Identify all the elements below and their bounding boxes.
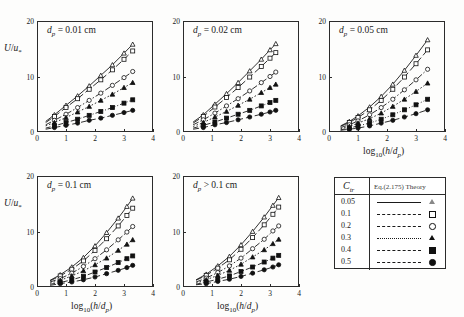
panel-dp-gt-0-1-marker-0.2 (239, 256, 243, 260)
panel-dp-gt-0-1-marker-0.2 (262, 237, 266, 241)
panel-dp-gt-0-1-marker-0.3 (250, 255, 255, 259)
legend-marker-0.1 (429, 211, 436, 218)
legend-header-ctr: Ctr (343, 180, 354, 194)
panel-dp-gt-0-1-marker-0.1 (262, 223, 266, 227)
panel-dp-gt-0-1-marker-0.1 (216, 266, 220, 270)
panel-dp-gt-0-1-marker-0.2 (251, 247, 255, 251)
legend-value-0.4: 0.4 (341, 245, 351, 254)
panel-dp-gt-0-1-marker-0.1 (271, 212, 275, 216)
panel-dp-gt-0-1-curves (0, 0, 464, 317)
panel-dp-gt-0-1-marker-0.1 (251, 236, 255, 240)
panel-dp-gt-0-1-marker-0.1 (239, 247, 243, 251)
legend-linestyle-0.05 (377, 202, 421, 203)
panel-dp-gt-0-1-marker-0.4 (277, 253, 281, 257)
legend-divider (369, 178, 370, 270)
legend-marker-0.2 (429, 223, 436, 230)
panel-dp-gt-0-1-marker-0.5 (277, 263, 281, 267)
legend-linestyle-0.2 (377, 226, 421, 227)
panel-dp-gt-0-1-marker-0.4 (251, 265, 255, 269)
legend-value-0.3: 0.3 (341, 233, 351, 242)
legend-value-0.5: 0.5 (341, 257, 351, 266)
panel-dp-gt-0-1: dp > 0.1 cmlog10(h/dp)0102001234 (0, 0, 464, 317)
panel-dp-gt-0-1-marker-0.5 (216, 279, 220, 283)
figure-multi-panel-plot: dp = 0.01 cmU/u*0102001234dp = 0.02 cm01… (0, 0, 464, 317)
panel-dp-gt-0-1-marker-0.3 (239, 262, 244, 266)
panel-dp-gt-0-1-marker-0.2 (277, 224, 281, 228)
panel-dp-gt-0-1-marker-0.3 (262, 248, 267, 252)
legend-linestyle-0.3 (377, 238, 421, 239)
legend-marker-0.05 (429, 199, 435, 204)
legend-linestyle-0.4 (377, 250, 421, 251)
panel-dp-gt-0-1-marker-0.4 (271, 256, 275, 260)
panel-dp-gt-0-1-marker-0.5 (271, 265, 275, 269)
legend-table: CtrEq.(2.175) Theory0.050.10.20.30.40.5 (334, 177, 446, 269)
panel-dp-gt-0-1-marker-0.2 (271, 229, 275, 233)
legend-marker-0.3 (429, 235, 435, 240)
panel-dp-gt-0-1-marker-0.4 (262, 260, 266, 264)
legend-value-0.05: 0.05 (341, 197, 355, 206)
panel-dp-gt-0-1-marker-0.5 (251, 271, 255, 275)
panel-dp-gt-0-1-marker-0.4 (239, 269, 243, 273)
legend-value-0.1: 0.1 (341, 209, 351, 218)
panel-dp-gt-0-1-marker-0.1 (227, 258, 231, 262)
legend-marker-0.5 (429, 259, 436, 266)
panel-dp-gt-0-1-marker-0.5 (239, 274, 243, 278)
panel-dp-gt-0-1-marker-0.3 (276, 237, 281, 241)
panel-dp-gt-0-1-marker-0.05 (276, 195, 281, 199)
panel-dp-gt-0-1-marker-0.3 (227, 268, 232, 272)
legend-header-theory: Eq.(2.175) Theory (374, 183, 426, 191)
panel-dp-gt-0-1-marker-0.3 (271, 241, 276, 245)
panel-dp-gt-0-1-marker-0.1 (277, 205, 281, 209)
panel-dp-gt-0-1-marker-0.5 (227, 277, 231, 281)
legend-linestyle-0.1 (377, 214, 421, 215)
legend-value-0.2: 0.2 (341, 221, 351, 230)
panel-dp-gt-0-1-marker-0.5 (204, 282, 208, 286)
panel-dp-gt-0-1-marker-0.5 (262, 268, 266, 272)
legend-marker-0.4 (429, 247, 436, 254)
legend-linestyle-0.5 (377, 262, 421, 263)
